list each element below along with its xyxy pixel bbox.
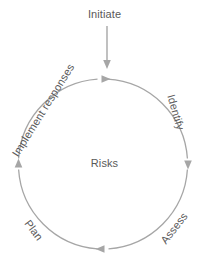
arrowhead-bottom-icon [96,245,105,253]
label-initiate: Initiate [0,8,209,20]
cycle-arc-bottom-left [19,170,98,249]
initiate-entry-arrow [103,26,111,69]
risk-cycle-diagram: Initiate Risks Identify Assess Plan Impl… [0,0,209,276]
label-risks-center: Risks [0,157,209,169]
arrowhead-top-icon [102,75,111,83]
initiate-arrow-head-icon [103,60,111,69]
cycle-arc-bottom-right [109,170,188,249]
